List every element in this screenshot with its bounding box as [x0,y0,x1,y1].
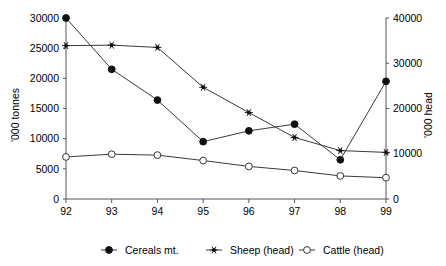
x-axis-tick-label: 93 [106,205,118,217]
left-axis-tick-label: 15000 [30,102,59,114]
data-point [291,167,298,174]
data-point [383,78,390,85]
left-axis-tick-label: 0 [53,193,59,205]
data-point [245,163,252,170]
chart-legend: Cereals mt.Sheep (head)Cattle (head) [101,244,384,256]
data-point [63,15,70,22]
chart-background [0,0,446,266]
left-axis-title: '000 tonnes [9,88,21,142]
legend-label: Cattle (head) [323,244,384,256]
data-point [337,173,344,180]
data-point [108,151,115,158]
x-axis-tick-label: 92 [60,205,72,217]
data-point [154,152,161,159]
line-chart: 050001000015000200002500030000 010000200… [0,0,446,266]
right-axis-tick-label: 40000 [393,12,422,24]
data-point [383,174,390,181]
data-point [245,127,252,134]
left-axis-tick-label: 10000 [30,132,59,144]
right-axis-tick-label: 30000 [393,57,422,69]
x-axis-tick-label: 95 [197,205,209,217]
data-point [200,138,207,145]
data-point [154,97,161,104]
left-axis-tick-label: 30000 [30,12,59,24]
legend-label: Sheep (head) [230,244,294,256]
right-axis-tick-label: 20000 [393,102,422,114]
legend-marker-filled-circle [106,247,113,254]
data-point [337,156,344,163]
x-axis-tick-label: 98 [334,205,346,217]
data-point [200,157,207,164]
legend-marker-open-circle [304,247,311,254]
right-axis-tick-label: 10000 [393,147,422,159]
right-axis-title: '000 head [422,92,434,138]
x-axis-tick-label: 97 [289,205,301,217]
x-axis-tick-label: 99 [380,205,392,217]
legend-label: Cereals mt. [125,244,179,256]
right-axis-tick-label: 0 [393,193,399,205]
left-axis-tick-label: 20000 [30,72,59,84]
data-point [291,121,298,128]
data-point [63,154,70,161]
left-axis-tick-label: 5000 [36,163,60,175]
data-point [108,66,115,73]
chart-container: 050001000015000200002500030000 010000200… [0,0,446,266]
x-axis-tick-label: 96 [243,205,255,217]
x-axis-tick-label: 94 [152,205,164,217]
left-axis-tick-label: 25000 [30,42,59,54]
